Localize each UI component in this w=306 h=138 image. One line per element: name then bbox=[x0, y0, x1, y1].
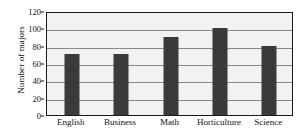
x-tick-label: Horticulture bbox=[197, 118, 241, 127]
y-tick-mark bbox=[41, 12, 44, 13]
x-tick-label: Math bbox=[160, 118, 179, 127]
y-tick-mark bbox=[41, 46, 44, 47]
y-tick-label: 80 bbox=[33, 42, 42, 51]
plot-area bbox=[46, 12, 293, 116]
y-tick-mark bbox=[41, 98, 44, 99]
y-tick-label: 60 bbox=[33, 60, 42, 69]
x-tick-label: English bbox=[57, 118, 85, 127]
y-tick-mark bbox=[41, 29, 44, 30]
y-tick-mark bbox=[41, 81, 44, 82]
x-tick-label: Business bbox=[104, 118, 136, 127]
bars-group bbox=[47, 13, 292, 115]
bar bbox=[163, 37, 178, 115]
x-tick-label: Science bbox=[254, 118, 282, 127]
y-tick-label: 20 bbox=[33, 94, 42, 103]
bar-chart: Number of majors 020406080100120 English… bbox=[0, 0, 306, 138]
y-axis-tick-labels: 020406080100120 bbox=[18, 12, 44, 116]
bar bbox=[212, 28, 227, 115]
bar bbox=[64, 54, 79, 115]
y-tick-label: 40 bbox=[33, 77, 42, 86]
bar bbox=[114, 54, 129, 115]
bar bbox=[262, 46, 277, 115]
y-tick-mark bbox=[41, 64, 44, 65]
y-tick-label: 120 bbox=[28, 8, 41, 17]
y-tick-mark bbox=[41, 116, 44, 117]
y-tick-label: 100 bbox=[28, 25, 41, 34]
x-axis-tick-labels: EnglishBusinessMathHorticultureScience bbox=[46, 118, 293, 134]
